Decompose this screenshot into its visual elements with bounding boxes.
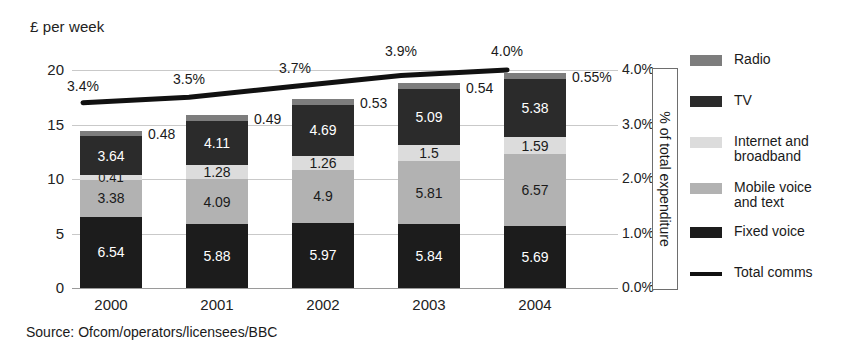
legend-swatch-mobile-voice-and-text [690, 183, 722, 194]
bar-segment-radio[interactable] [80, 131, 142, 136]
bar-segment-mobile-voice[interactable]: 5.81 [398, 161, 460, 224]
legend-item-total-comms[interactable]: Total comms [690, 265, 813, 280]
bar-label-radio-2003: 0.54 [466, 80, 493, 96]
x-tick-2003: 2003 [398, 296, 460, 313]
y-tick-left-20: 20 [28, 61, 64, 78]
plot-area: 6.54 3.38 0.41 3.64 0.48 5.88 4.09 1.28 … [72, 70, 618, 288]
legend-label-radio: Radio [734, 52, 771, 67]
bar-segment-radio[interactable] [292, 99, 354, 105]
legend-swatch-total-comms [690, 272, 722, 276]
source-note: Source: Ofcom/operators/licensees/BBC [26, 324, 277, 340]
legend-item-radio[interactable]: Radio [690, 52, 771, 67]
y-axis-title-left: £ per week [30, 18, 104, 35]
bar-segment-mobile-voice[interactable]: 4.09 [186, 179, 248, 224]
bar-segment-internet[interactable]: 0.41 [80, 175, 142, 180]
line-label-2001: 3.5% [173, 71, 205, 87]
y-tick-left-5: 5 [28, 225, 64, 242]
bar-segment-tv[interactable]: 5.09 [398, 89, 460, 145]
bar-label-radio-2004: 0.55% [572, 69, 612, 85]
bar-segment-fixed-voice[interactable]: 6.54 [80, 217, 142, 288]
bar-segment-tv[interactable]: 5.38 [504, 79, 566, 138]
bar-segment-mobile-voice[interactable]: 6.57 [504, 154, 566, 226]
bar-label-radio-2001: 0.49 [254, 111, 281, 127]
legend-swatch-internet-and-broadband [690, 137, 722, 148]
legend-item-mobile-voice-and-text[interactable]: Mobile voice and text [690, 180, 850, 210]
y-tick-left-15: 15 [28, 116, 64, 133]
bar-segment-internet[interactable]: 1.59 [504, 137, 566, 154]
x-tick-2001: 2001 [186, 296, 248, 313]
line-label-2004: 4.0% [491, 43, 523, 59]
legend-label-internet-and-broadband: Internet and broadband [734, 134, 842, 164]
bar-segment-tv[interactable]: 3.64 [80, 136, 142, 176]
bar-segment-internet[interactable]: 1.26 [292, 156, 354, 170]
bar-segment-fixed-voice[interactable]: 5.69 [504, 226, 566, 288]
bar-segment-radio[interactable] [186, 115, 248, 120]
chart-root: £ per week 20 15 10 5 0 4.0% 3.0% 2.0% 1… [0, 0, 852, 357]
bar-segment-radio[interactable] [504, 73, 566, 79]
legend-swatch-tv [690, 96, 722, 107]
y-axis-left-ticks: 20 15 10 5 0 [24, 70, 64, 288]
gridline-0-axis [72, 288, 618, 289]
bar-segment-radio[interactable] [398, 83, 460, 89]
y-tick-left-0: 0 [28, 279, 64, 296]
legend-label-mobile-voice-and-text: Mobile voice and text [734, 180, 834, 210]
line-label-2002: 3.7% [279, 60, 311, 76]
y-tick-left-10: 10 [28, 170, 64, 187]
x-tick-2004: 2004 [504, 296, 566, 313]
legend-swatch-radio [690, 55, 722, 66]
bar-segment-internet[interactable]: 1.5 [398, 145, 460, 161]
bar-segment-fixed-voice[interactable]: 5.84 [398, 224, 460, 288]
bar-segment-fixed-voice[interactable]: 5.88 [186, 224, 248, 288]
bar-segment-fixed-voice[interactable]: 5.97 [292, 223, 354, 288]
y-axis-title-right-box: % of total expenditure [652, 68, 678, 290]
bar-segment-mobile-voice[interactable]: 3.38 [80, 180, 142, 217]
bar-label-radio-2002: 0.53 [360, 95, 387, 111]
legend-item-tv[interactable]: TV [690, 93, 752, 108]
legend-label-fixed-voice: Fixed voice [734, 224, 805, 239]
bar-segment-internet[interactable]: 1.28 [186, 165, 248, 179]
legend-item-internet-and-broadband[interactable]: Internet and broadband [690, 134, 850, 164]
legend-label-tv: TV [734, 93, 752, 108]
line-label-2003: 3.9% [385, 43, 417, 59]
bar-segment-tv[interactable]: 4.11 [186, 121, 248, 166]
legend-swatch-fixed-voice [690, 227, 722, 238]
legend-item-fixed-voice[interactable]: Fixed voice [690, 224, 805, 239]
x-tick-2002: 2002 [292, 296, 354, 313]
gridline-20 [72, 70, 618, 71]
legend-label-total-comms: Total comms [734, 265, 813, 280]
bar-label-radio-2000: 0.48 [148, 126, 175, 142]
line-label-2000: 3.4% [67, 78, 99, 94]
y-axis-title-right: % of total expenditure [657, 111, 673, 246]
x-tick-2000: 2000 [80, 296, 142, 313]
bar-segment-mobile-voice[interactable]: 4.9 [292, 170, 354, 223]
bar-segment-tv[interactable]: 4.69 [292, 105, 354, 156]
